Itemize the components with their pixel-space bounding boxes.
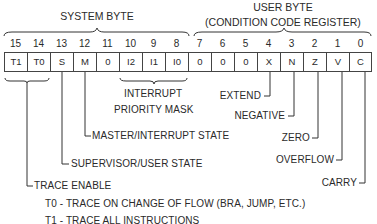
carry-label: CARRY: [322, 177, 357, 188]
bit-cell-6: 0: [211, 52, 234, 72]
bit-number-2: 2: [303, 38, 326, 49]
bit-number-15: 15: [4, 38, 27, 49]
bit-number-3: 3: [280, 38, 303, 49]
zero-label: ZERO: [282, 132, 310, 143]
bit-number-6: 6: [211, 38, 234, 49]
interrupt-mask-label-line1: INTERRUPT: [124, 88, 182, 99]
bit-number-9: 9: [142, 38, 165, 49]
system-byte-brace: [4, 28, 189, 36]
bit-number-11: 11: [96, 38, 119, 49]
trace-t1-description: T1 - TRACE ALL INSTRUCTIONS: [45, 215, 199, 224]
bit-number-0: 0: [349, 38, 372, 49]
extend-label: EXTEND: [220, 90, 261, 101]
interrupt-mask-label-line2: PRIORITY MASK: [114, 104, 193, 115]
bit-number-1: 1: [326, 38, 349, 49]
master-interrupt-state-label: MASTER/INTERRUPT STATE: [92, 130, 229, 141]
bit-number-10: 10: [119, 38, 142, 49]
user-byte-brace: [194, 28, 371, 36]
bit-cell-v: V: [326, 52, 349, 72]
bit-cell-t1: T1: [4, 52, 27, 72]
bit-cell-m: M: [73, 52, 96, 72]
bit-cell-n: N: [280, 52, 303, 72]
trace-enable-label: TRACE ENABLE: [34, 180, 111, 191]
bit-cell-i1: I1: [142, 52, 165, 72]
bit-number-13: 13: [50, 38, 73, 49]
bit-cell-t0: T0: [27, 52, 50, 72]
negative-label: NEGATIVE: [234, 110, 285, 121]
trace-t0-description: T0 - TRACE ON CHANGE OF FLOW (BRA, JUMP,…: [45, 198, 305, 209]
bit-cell-11: 0: [96, 52, 119, 72]
bit-cell-s: S: [50, 52, 73, 72]
bit-cell-i0: I0: [165, 52, 188, 72]
supervisor-user-state-label: SUPERVISOR/USER STATE: [71, 158, 203, 169]
bit-cell-5: 0: [234, 52, 257, 72]
overflow-label: OVERFLOW: [276, 154, 334, 165]
bit-cell-7: 0: [188, 52, 211, 72]
bit-number-14: 14: [27, 38, 50, 49]
bit-cell-c: C: [349, 52, 372, 72]
bit-number-12: 12: [73, 38, 96, 49]
bit-number-7: 7: [188, 38, 211, 49]
bit-number-5: 5: [234, 38, 257, 49]
bit-cell-z: Z: [303, 52, 326, 72]
bit-number-8: 8: [165, 38, 188, 49]
bit-number-4: 4: [257, 38, 280, 49]
bit-cell-x: X: [257, 52, 280, 72]
bit-cell-i2: I2: [119, 52, 142, 72]
